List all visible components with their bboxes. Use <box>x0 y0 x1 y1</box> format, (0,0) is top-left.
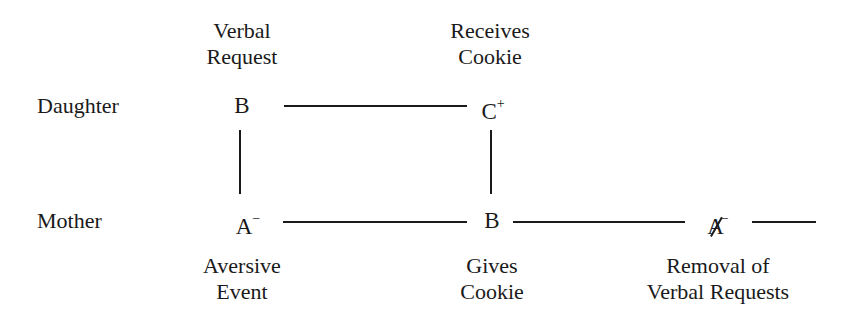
caption-line: Verbal Requests <box>628 279 808 305</box>
caption-line: Gives <box>432 253 552 279</box>
node-symbol: A <box>236 214 253 239</box>
caption-receives-cookie: Receives Cookie <box>430 18 550 70</box>
node-symbol: C <box>481 99 496 124</box>
node-daughter-b: B <box>234 93 249 119</box>
node-symbol: B <box>484 208 499 233</box>
node-superscript: + <box>497 96 505 111</box>
caption-line: Verbal <box>182 18 302 44</box>
node-mother-b: B <box>484 208 499 234</box>
caption-verbal-request: Verbal Request <box>182 18 302 70</box>
caption-line: Cookie <box>430 44 550 70</box>
node-superscript: − <box>252 211 260 226</box>
node-daughter-c-plus: C+ <box>481 93 504 125</box>
caption-line: Cookie <box>432 279 552 305</box>
node-symbol: B <box>234 93 249 118</box>
caption-gives-cookie: Gives Cookie <box>432 253 552 305</box>
caption-line: Aversive <box>182 253 302 279</box>
edge-mother-b-to-removal <box>513 221 685 223</box>
caption-removal-of-verbal-requests: Removal of Verbal Requests <box>628 253 808 305</box>
caption-line: Event <box>182 279 302 305</box>
caption-line: Request <box>182 44 302 70</box>
row-label-mother: Mother <box>37 208 102 234</box>
edge-mother-a-to-b <box>283 221 467 223</box>
node-superscript: − <box>721 211 729 226</box>
edge-daughter-c-to-mother-b <box>490 130 492 194</box>
edge-daughter-b-to-c <box>284 105 467 107</box>
caption-aversive-event: Aversive Event <box>182 253 302 305</box>
edge-removal-continuation <box>752 221 816 223</box>
node-mother-a-minus: A− <box>236 208 261 240</box>
row-label-daughter: Daughter <box>37 93 119 119</box>
caption-line: Removal of <box>628 253 808 279</box>
node-mother-a-minus-removed: A− <box>707 208 729 240</box>
edge-daughter-b-to-mother-a <box>239 130 241 194</box>
caption-line: Receives <box>430 18 550 44</box>
